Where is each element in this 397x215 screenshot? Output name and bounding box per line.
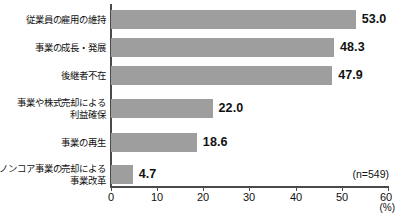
bar <box>111 99 213 118</box>
x-axis-tick-label: 50 <box>336 191 348 203</box>
sample-size-annotation: (n=549) <box>353 168 389 180</box>
bar-chart: 53.0 48.3 47.9 22.0 18.6 4.7 従業員の雇用の維持 事… <box>0 0 397 215</box>
category-label: ノンコア事業の売却による 事業改革 <box>0 163 106 186</box>
plot-area: 53.0 48.3 47.9 22.0 18.6 4.7 <box>111 6 388 186</box>
bar-value-label: 22.0 <box>219 99 244 118</box>
category-label: 事業の再生 <box>0 137 106 149</box>
x-axis-tick-label: 20 <box>197 191 209 203</box>
category-label: 後継者不在 <box>0 70 106 82</box>
bar-value-label: 47.9 <box>338 66 363 85</box>
bar-value-label: 18.6 <box>203 133 228 152</box>
x-axis-tick-label: 30 <box>243 191 255 203</box>
chart-row: 53.0 <box>111 6 388 34</box>
category-label: 事業の成長・発展 <box>0 42 106 54</box>
bar-value-label: 48.3 <box>340 38 365 57</box>
chart-row: 4.7 <box>111 161 388 189</box>
x-axis-tick-label: 0 <box>108 191 114 203</box>
bar <box>111 10 356 29</box>
chart-row: 22.0 <box>111 95 388 123</box>
bar-value-label: 53.0 <box>362 10 387 29</box>
x-axis-tick-label: 10 <box>151 191 163 203</box>
x-axis-unit-label: (%) <box>379 202 395 213</box>
chart-row: 48.3 <box>111 34 388 62</box>
x-axis-tick-label: 40 <box>290 191 302 203</box>
bar-value-label: 4.7 <box>139 165 157 184</box>
category-label: 従業員の雇用の維持 <box>0 14 106 26</box>
chart-row: 18.6 <box>111 129 388 157</box>
chart-row: 47.9 <box>111 62 388 90</box>
bar <box>111 133 197 152</box>
bar <box>111 165 133 184</box>
bar <box>111 66 332 85</box>
bar <box>111 38 334 57</box>
category-label: 事業や株式売却による 利益確保 <box>0 97 106 120</box>
